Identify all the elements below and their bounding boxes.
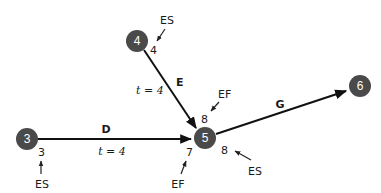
node-4: 4: [126, 30, 148, 52]
edge-e-label: E: [176, 76, 184, 89]
edge-d-duration: t = 4: [98, 145, 126, 158]
edge-e-duration: t = 4: [136, 84, 164, 97]
activity-network-diagram: D t = 4 E t = 4 G 4 3 5 6 ES 4 3 ES EF 8…: [0, 0, 381, 193]
node-5-es-label: ES: [248, 165, 262, 178]
node-3-es-value: 3: [38, 146, 45, 159]
node-5: 5: [194, 127, 216, 149]
node-6: 6: [349, 75, 371, 97]
node-4-es-value: 4: [150, 44, 157, 57]
node-6-label: 6: [357, 79, 364, 93]
node-5-label: 5: [202, 131, 209, 145]
edge-d-label: D: [101, 123, 110, 136]
edge-e-ef-label: EF: [218, 88, 231, 101]
edge-e-ef-pointer: [211, 102, 219, 111]
edge-d-ef-value: 7: [186, 146, 193, 159]
edge-e-ef-value: 8: [201, 113, 208, 126]
edge-g-label: G: [275, 98, 284, 111]
edge-d-ef-pointer: [181, 161, 186, 174]
edge-d-ef-label: EF: [171, 178, 184, 191]
node-4-label: 4: [134, 34, 141, 48]
node-5-es-pointer: [235, 151, 251, 160]
node-4-es-label: ES: [160, 14, 174, 27]
node-3-es-label: ES: [35, 178, 49, 191]
node-4-es-pointer: [157, 29, 165, 41]
node-3-label: 3: [24, 132, 31, 146]
node-3: 3: [16, 128, 38, 150]
node-5-es-value: 8: [221, 144, 228, 157]
